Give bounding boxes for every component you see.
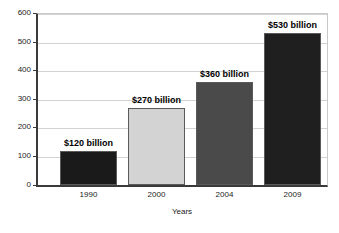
x-axis-label-2009: 2009 [264, 191, 321, 199]
bar-slot-2000: $270 billion [128, 13, 185, 185]
bar-value-label-2009: $530 billion [248, 21, 337, 30]
bar-value-label-1990: $120 billion [44, 139, 133, 148]
y-tickmark-200 [33, 127, 36, 128]
bars-layer: $120 billion $270 billion $360 billion $… [38, 13, 327, 185]
x-axis-labels: 1990 2000 2004 2009 [38, 191, 327, 205]
y-axis-label-600: 600 [0, 9, 31, 17]
bar-chart: 600 500 400 300 200 100 0 $120 billion $… [0, 0, 339, 233]
bar-value-label-2000: $270 billion [112, 96, 201, 105]
bar-1990[interactable] [60, 151, 117, 185]
y-axis-label-100: 100 [0, 152, 31, 160]
y-axis-label-200: 200 [0, 123, 31, 131]
y-tickmark-300 [33, 99, 36, 100]
bar-2000[interactable] [128, 108, 185, 185]
bar-value-label-2004: $360 billion [180, 70, 269, 79]
bar-slot-2009: $530 billion [264, 13, 321, 185]
y-tickmark-500 [33, 42, 36, 43]
y-tickmark-100 [33, 156, 36, 157]
bar-slot-1990: $120 billion [60, 13, 117, 185]
x-axis-label-2000: 2000 [128, 191, 185, 199]
y-axis-label-0: 0 [0, 181, 31, 189]
x-axis-title: Years [36, 208, 328, 216]
x-axis-label-2004: 2004 [196, 191, 253, 199]
y-axis-label-500: 500 [0, 38, 31, 46]
y-tickmark-0 [33, 185, 36, 186]
x-axis-label-1990: 1990 [60, 191, 117, 199]
bar-2004[interactable] [196, 82, 253, 185]
y-axis-label-300: 300 [0, 95, 31, 103]
y-axis-label-400: 400 [0, 66, 31, 74]
bar-slot-2004: $360 billion [196, 13, 253, 185]
y-tickmark-400 [33, 70, 36, 71]
y-tickmark-600 [33, 13, 36, 14]
bar-2009[interactable] [264, 33, 321, 185]
